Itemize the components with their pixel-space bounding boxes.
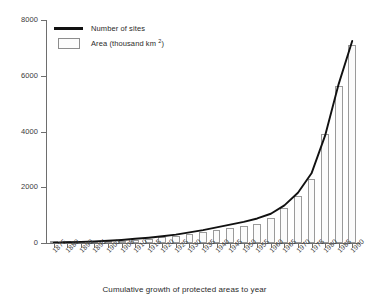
bar — [308, 179, 316, 243]
legend-item-area: Area (thousand km 2) — [53, 37, 164, 50]
y-tick — [41, 187, 46, 188]
chart-container: 02000400060008000 1875188018901895190019… — [0, 0, 369, 303]
y-tick — [41, 20, 46, 21]
y-tick-label: 0 — [34, 239, 38, 247]
legend-label-number-of-sites: Number of sites — [91, 24, 145, 33]
legend-item-number-of-sites: Number of sites — [53, 22, 164, 35]
y-tick-label: 6000 — [21, 72, 38, 80]
bar — [267, 218, 275, 243]
bar — [280, 208, 288, 243]
y-tick-label: 2000 — [21, 183, 38, 191]
bar — [321, 134, 329, 243]
bar — [348, 45, 356, 243]
bar — [294, 196, 302, 243]
plot-area — [47, 20, 359, 243]
legend-line-icon — [53, 27, 84, 29]
x-axis-title: Cumulative growth of protected areas to … — [0, 285, 369, 294]
legend-label-area-tail: ) — [161, 39, 164, 48]
legend-label-area: Area (thousand km 2) — [91, 39, 164, 48]
y-tick-label: 4000 — [21, 128, 38, 136]
legend-label-area-main: Area (thousand km — [91, 39, 158, 48]
y-tick — [41, 76, 46, 77]
y-tick — [41, 132, 46, 133]
y-tick-label: 8000 — [21, 16, 38, 24]
legend-box-icon — [53, 38, 84, 49]
bar — [335, 86, 343, 243]
chart-legend: Number of sites Area (thousand km 2) — [53, 22, 164, 52]
